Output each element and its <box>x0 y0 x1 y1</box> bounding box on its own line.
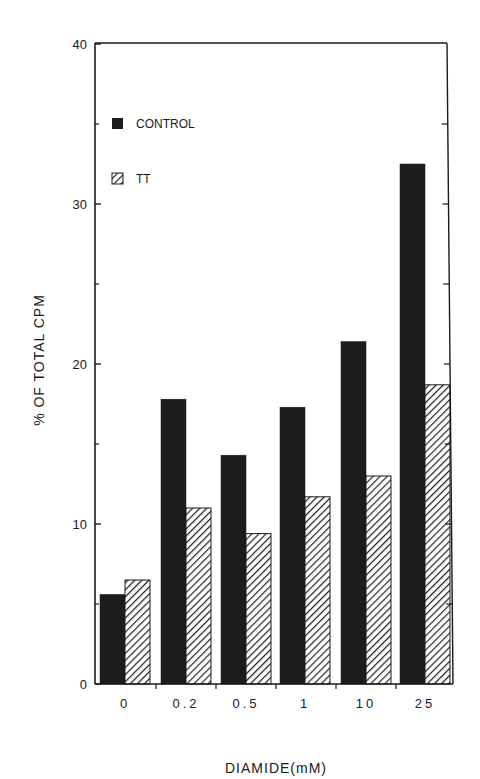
x-ticks: 00.20.511025 <box>120 684 435 711</box>
bar-tt-10 <box>366 476 391 684</box>
bars-group <box>100 164 450 684</box>
legend: CONTROL TT <box>112 117 195 186</box>
bar-control-0_2 <box>161 399 186 684</box>
x-tick-label: 0.5 <box>232 696 259 711</box>
legend-item-control: CONTROL <box>112 117 195 131</box>
bar-control-10 <box>341 342 366 684</box>
y-tick-label: 20 <box>73 357 87 372</box>
bar-chart: 010203040 00.20.511025 CONTROL TT % OF T… <box>0 0 480 779</box>
x-axis-title: DIAMIDE(mM) <box>225 760 327 776</box>
legend-swatch-solid-icon <box>112 118 123 129</box>
legend-label-control: CONTROL <box>136 117 195 131</box>
x-tick-label: 25 <box>415 696 435 711</box>
legend-item-tt: TT <box>112 172 151 186</box>
y-tick-label: 0 <box>80 677 87 692</box>
bar-tt-1 <box>305 497 330 684</box>
x-tick-label: 0 <box>120 696 130 711</box>
x-tick-label: 10 <box>356 696 376 711</box>
bar-control-1 <box>280 407 305 684</box>
bar-control-0 <box>100 594 125 684</box>
y-tick-label: 10 <box>73 517 87 532</box>
bar-control-25 <box>400 164 425 684</box>
bar-tt-0_5 <box>246 534 271 684</box>
bar-control-0_5 <box>221 455 246 684</box>
y-axis-title: % OF TOTAL CPM <box>31 294 47 426</box>
legend-swatch-hatched-icon <box>112 173 123 184</box>
bar-tt-25 <box>425 385 450 684</box>
x-tick-label: 0.2 <box>172 696 199 711</box>
y-tick-label: 40 <box>73 37 87 52</box>
bar-tt-0 <box>125 580 150 684</box>
legend-label-tt: TT <box>136 172 151 186</box>
y-tick-label: 30 <box>73 197 87 212</box>
x-tick-label: 1 <box>300 696 310 711</box>
bar-tt-0_2 <box>186 508 211 684</box>
